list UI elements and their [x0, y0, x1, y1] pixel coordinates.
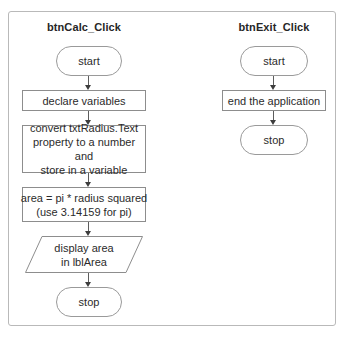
node-calc-display[interactable]: display area in lblArea [25, 236, 143, 273]
node-exit-stop-label: stop [264, 134, 285, 146]
node-calc-start-label: start [78, 55, 99, 67]
parallelogram-shape [25, 236, 143, 273]
connector-exit-start-to-end-app [269, 76, 278, 90]
connector-calc-start-to-declare [84, 76, 93, 90]
column-title-btn-calc: btnCalc_Click [22, 21, 146, 33]
connector-exit-end-app-to-stop [269, 111, 278, 125]
node-calc-convert-line1: convert txtRadius.Text [30, 121, 138, 135]
node-calc-convert-line2: property to a number and [26, 135, 142, 163]
connector-calc-convert-to-area [84, 173, 93, 187]
node-exit-end-app[interactable]: end the application [222, 90, 326, 111]
node-calc-start[interactable]: start [56, 46, 122, 76]
node-calc-declare[interactable]: declare variables [22, 90, 146, 111]
flowchart-canvas: btnCalc_Click start declare variables co… [0, 0, 344, 342]
column-title-btn-exit: btnExit_Click [222, 21, 326, 33]
node-calc-area[interactable]: area = pi * radius squared (use 3.14159 … [22, 187, 146, 222]
node-exit-start[interactable]: start [240, 46, 308, 76]
node-exit-stop[interactable]: stop [240, 125, 308, 155]
node-calc-stop-label: stop [79, 296, 100, 308]
node-exit-start-label: start [263, 55, 284, 67]
node-calc-area-line2: (use 3.14159 for pi) [36, 205, 131, 219]
connector-calc-display-to-stop [84, 273, 93, 287]
node-calc-declare-label: declare variables [42, 94, 125, 108]
connector-calc-area-to-display [84, 222, 93, 236]
node-calc-convert[interactable]: convert txtRadius.Text property to a num… [22, 125, 146, 173]
node-calc-stop[interactable]: stop [56, 287, 122, 317]
node-exit-end-app-label: end the application [228, 94, 320, 108]
node-calc-area-line1: area = pi * radius squared [21, 191, 147, 205]
